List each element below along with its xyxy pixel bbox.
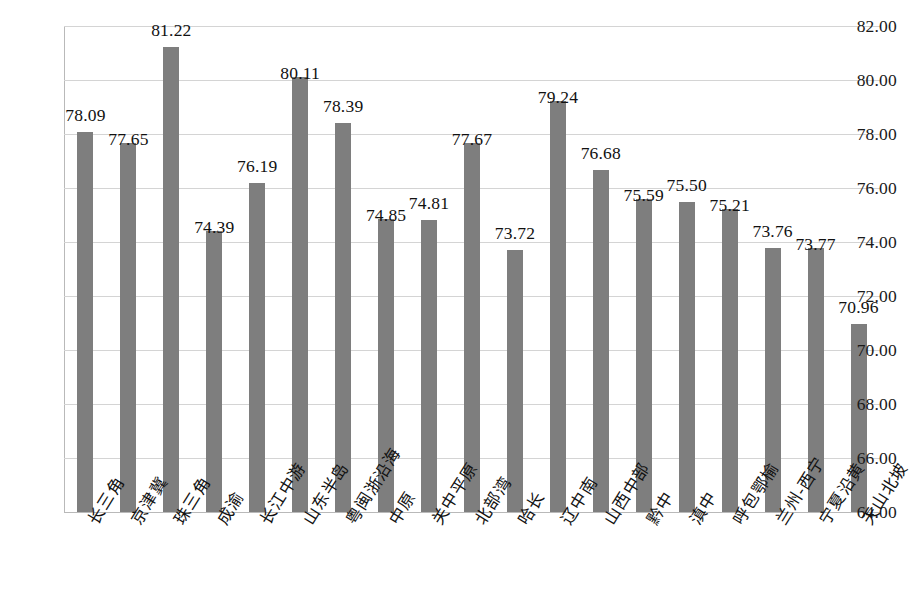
- y-axis-tick-label: 70.00: [839, 340, 897, 361]
- bar-value-label: 74.39: [194, 217, 234, 238]
- bar[interactable]: [77, 132, 93, 512]
- y-axis-tick-label: 72.00: [839, 286, 897, 307]
- bar-value-label: 76.19: [237, 156, 277, 177]
- bar[interactable]: [550, 101, 566, 512]
- bar[interactable]: [163, 47, 179, 512]
- bar[interactable]: [421, 220, 437, 512]
- y-axis-tick-label: 78.00: [839, 124, 897, 145]
- bar-value-label: 75.21: [709, 195, 749, 216]
- x-axis-category-labels: 长三角京津冀珠三角成渝长江中游山东半岛粤闽浙沿海中原关中平原北部湾哈长辽中南山西…: [0, 516, 897, 604]
- gridline: [64, 80, 880, 81]
- bar-value-label: 77.65: [108, 129, 148, 150]
- bar-value-label: 78.39: [323, 96, 363, 117]
- bar[interactable]: [206, 231, 222, 512]
- y-axis-tick-label: 80.00: [839, 70, 897, 91]
- bar[interactable]: [464, 143, 480, 512]
- bar-value-label: 73.77: [795, 234, 835, 255]
- bar-value-label: 79.24: [538, 87, 578, 108]
- y-axis-tick-label: 68.00: [839, 394, 897, 415]
- y-axis-tick-label: 74.00: [839, 232, 897, 253]
- y-axis-tick-label: 82.00: [839, 16, 897, 37]
- bar-value-label: 73.76: [752, 221, 792, 242]
- bar-value-label: 74.81: [409, 193, 449, 214]
- bar[interactable]: [335, 123, 351, 512]
- bar[interactable]: [249, 183, 265, 512]
- bar[interactable]: [593, 170, 609, 512]
- bar-value-label: 80.11: [280, 63, 320, 84]
- bar-value-label: 78.09: [65, 105, 105, 126]
- bar[interactable]: [679, 202, 695, 513]
- bar-value-label: 74.85: [366, 205, 406, 226]
- bar-value-label: 77.67: [452, 129, 492, 150]
- bar[interactable]: [120, 143, 136, 512]
- bar[interactable]: [292, 77, 308, 512]
- bar[interactable]: [507, 250, 523, 512]
- bar-value-label: 73.72: [495, 223, 535, 244]
- plot-area: 78.0977.6581.2274.3976.1980.1178.3974.85…: [64, 26, 880, 512]
- bar-value-label: 75.59: [624, 185, 664, 206]
- bar[interactable]: [722, 209, 738, 512]
- y-axis-tick-label: 76.00: [839, 178, 897, 199]
- bar-value-label: 76.68: [581, 143, 621, 164]
- bar-value-label: 81.22: [151, 20, 191, 41]
- bar-value-label: 75.50: [667, 175, 707, 196]
